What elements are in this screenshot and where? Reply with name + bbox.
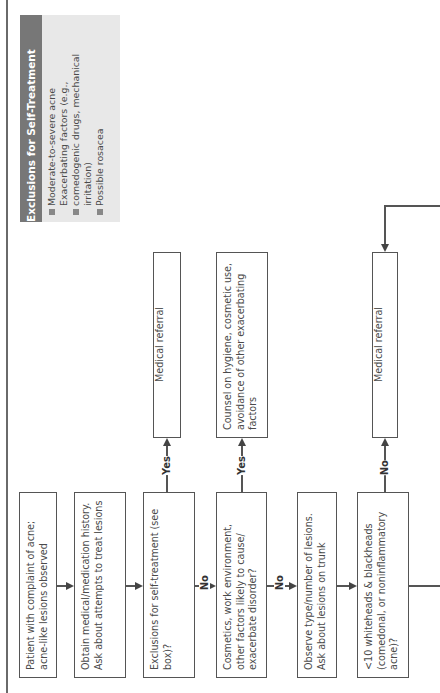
decision-exclusions: Exclusions for self-treatment (see box)? bbox=[143, 492, 195, 678]
page-border-line bbox=[6, 0, 8, 693]
connector-line-offpage bbox=[409, 585, 440, 587]
outcome-counsel: Counsel on hygiene, cosmetic use, avoida… bbox=[216, 252, 268, 438]
arrow-right-icon bbox=[349, 582, 357, 590]
exclusion-item: Possible rosacea bbox=[94, 21, 106, 216]
step-observe-lesions: Observe type/number of lesions. Ask abou… bbox=[297, 492, 337, 678]
exclusion-item: Exacerbating factors (e.g., comedogenic … bbox=[58, 21, 94, 216]
label-no: No bbox=[199, 575, 210, 590]
exclusions-list: Moderate-to-severe acne Exacerbating fac… bbox=[44, 15, 118, 222]
outcome-text: Medical referral bbox=[373, 253, 397, 437]
outcome-text: Medical referral bbox=[154, 253, 180, 437]
arrow-right-icon bbox=[135, 582, 143, 590]
label-yes: Yes bbox=[236, 456, 247, 475]
connector-line-incoming bbox=[384, 205, 440, 207]
label-no: No bbox=[379, 460, 390, 475]
outcome-text: Counsel on hygiene, cosmetic use, avoida… bbox=[217, 253, 267, 437]
arrow-up-icon bbox=[381, 438, 389, 446]
step-obtain-history: Obtain medical/medication history. Ask a… bbox=[74, 492, 126, 678]
step-text: Obtain medical/medication history. Ask a… bbox=[75, 493, 125, 677]
label-yes: Yes bbox=[161, 456, 172, 475]
outcome-medical-referral-2: Medical referral bbox=[372, 252, 398, 438]
exclusions-box-title: Exclusions for Self-Treatment bbox=[20, 15, 42, 222]
arrow-right-icon bbox=[289, 582, 297, 590]
connector-line bbox=[384, 205, 386, 244]
arrow-right-icon bbox=[66, 582, 74, 590]
exclusions-box: Exclusions for Self-Treatment Moderate-t… bbox=[20, 15, 120, 222]
step-patient-complaint: Patient with complaint of acne; acne-lik… bbox=[19, 492, 57, 678]
arrow-down-icon bbox=[381, 244, 389, 252]
step-text: <10 whiteheads & blackheads (comedonal, … bbox=[358, 493, 408, 677]
step-text: Cosmetics, work environment, other facto… bbox=[217, 493, 266, 677]
connector-line bbox=[57, 585, 66, 587]
label-no: No bbox=[274, 575, 285, 590]
arrow-up-icon bbox=[163, 438, 171, 446]
decision-lesion-count: <10 whiteheads & blackheads (comedonal, … bbox=[357, 492, 409, 678]
step-text: Patient with complaint of acne; acne-lik… bbox=[20, 493, 56, 677]
outcome-medical-referral-1: Medical referral bbox=[153, 252, 181, 438]
connector-line bbox=[126, 585, 135, 587]
step-text: Observe type/number of lesions. Ask abou… bbox=[298, 493, 336, 677]
exclusion-item: Moderate-to-severe acne bbox=[46, 21, 58, 216]
exclusions-box-body: Moderate-to-severe acne Exacerbating fac… bbox=[44, 15, 118, 222]
connector-line bbox=[337, 585, 349, 587]
arrow-up-icon bbox=[238, 438, 246, 446]
decision-cosmetics: Cosmetics, work environment, other facto… bbox=[216, 492, 267, 678]
exclusions-box-header: Exclusions for Self-Treatment bbox=[20, 15, 42, 222]
step-text: Exclusions for self-treatment (see box)? bbox=[144, 493, 194, 677]
